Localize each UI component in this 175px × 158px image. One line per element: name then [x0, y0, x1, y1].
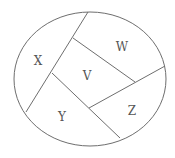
region-label-v: V: [82, 69, 92, 83]
region-labels: X W V Y Z: [34, 40, 136, 124]
region-label-x: X: [34, 54, 43, 68]
region-label-w: W: [116, 40, 129, 54]
region-diagram: X W V Y Z: [0, 0, 175, 158]
region-label-z: Z: [128, 104, 136, 118]
region-label-y: Y: [57, 110, 67, 124]
divider-lines: [26, 12, 165, 138]
divider-line: [89, 66, 165, 108]
